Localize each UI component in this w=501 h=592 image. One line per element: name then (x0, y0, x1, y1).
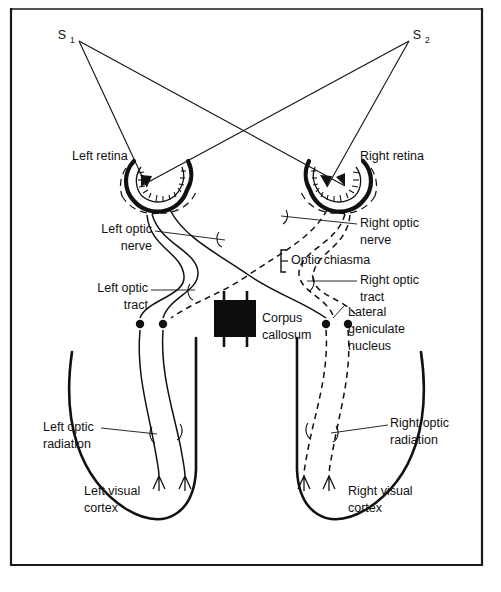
svg-text:geniculate: geniculate (348, 322, 405, 336)
svg-text:Left visual: Left visual (84, 484, 140, 498)
svg-text:radiation: radiation (43, 437, 91, 451)
svg-text:nerve: nerve (360, 233, 391, 247)
lgn-dot-left-b (159, 320, 167, 328)
lgn-dot-left-a (136, 320, 144, 328)
svg-text:Left optic: Left optic (97, 281, 148, 295)
label-right-retina: Right retina (360, 149, 424, 163)
svg-text:Corpus: Corpus (262, 311, 302, 325)
figure-background (0, 0, 501, 592)
svg-text:Lateral: Lateral (348, 305, 386, 319)
svg-text:radiation: radiation (390, 433, 438, 447)
source-s1-letter: S (58, 28, 66, 42)
svg-text:Right optic: Right optic (360, 216, 419, 230)
svg-text:tract: tract (124, 298, 149, 312)
label-optic-chiasma: Optic chiasma (291, 253, 370, 267)
svg-text:tract: tract (360, 290, 385, 304)
svg-text:nucleus: nucleus (348, 339, 391, 353)
svg-text:nerve: nerve (121, 239, 152, 253)
visual-pathway-figure: S 1 S 2 Left retina Right retina Left op… (0, 0, 501, 592)
svg-text:Right optic: Right optic (390, 416, 449, 430)
svg-text:callosum: callosum (262, 328, 311, 342)
svg-text:cortex: cortex (348, 501, 383, 515)
corpus-callosum-block (214, 300, 256, 337)
source-s2-subscript: 2 (425, 35, 430, 45)
svg-text:cortex: cortex (84, 501, 119, 515)
source-s1-subscript: 1 (70, 35, 75, 45)
svg-text:Left optic: Left optic (43, 420, 94, 434)
svg-text:Right optic: Right optic (360, 273, 419, 287)
source-s2-letter: S (413, 28, 421, 42)
label-left-retina: Left retina (72, 149, 128, 163)
visual-pathway-diagram: S 1 S 2 Left retina Right retina Left op… (0, 0, 501, 592)
lgn-dot-right-a (322, 320, 330, 328)
svg-text:Right visual: Right visual (348, 484, 413, 498)
svg-text:Left optic: Left optic (101, 222, 152, 236)
